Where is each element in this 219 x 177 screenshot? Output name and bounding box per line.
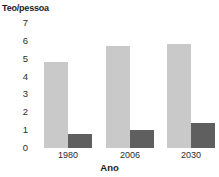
bar-dark-2030 [191,123,215,148]
y-axis-tick-label: 1 [12,124,28,135]
bar-light-2006 [106,46,130,148]
x-axis-title: Ano [0,162,219,173]
y-axis-tick-label: 7 [12,17,28,28]
bar-dark-2006 [130,130,154,148]
x-axis-tick-label: 1980 [44,150,92,161]
bar-light-2030 [167,44,191,148]
bar-group [44,23,92,148]
y-axis-tick-label: 2 [12,106,28,117]
y-axis-tick-label: 4 [12,71,28,82]
bar-group [106,23,154,148]
y-axis-tick-label: 5 [12,53,28,64]
bar-chart: Teo/pessoa 01234567 198020062030 Ano [0,0,219,177]
y-axis-tick-label: 6 [12,35,28,46]
bar-group [167,23,215,148]
bar-dark-1980 [68,134,92,148]
bar-light-1980 [44,62,68,148]
x-axis-tick-label: 2030 [167,150,215,161]
bar-groups: 198020062030 [30,0,219,177]
y-axis-tick-label: 3 [12,88,28,99]
y-axis-tick-label: 0 [12,142,28,153]
x-axis-tick-label: 2006 [106,150,154,161]
